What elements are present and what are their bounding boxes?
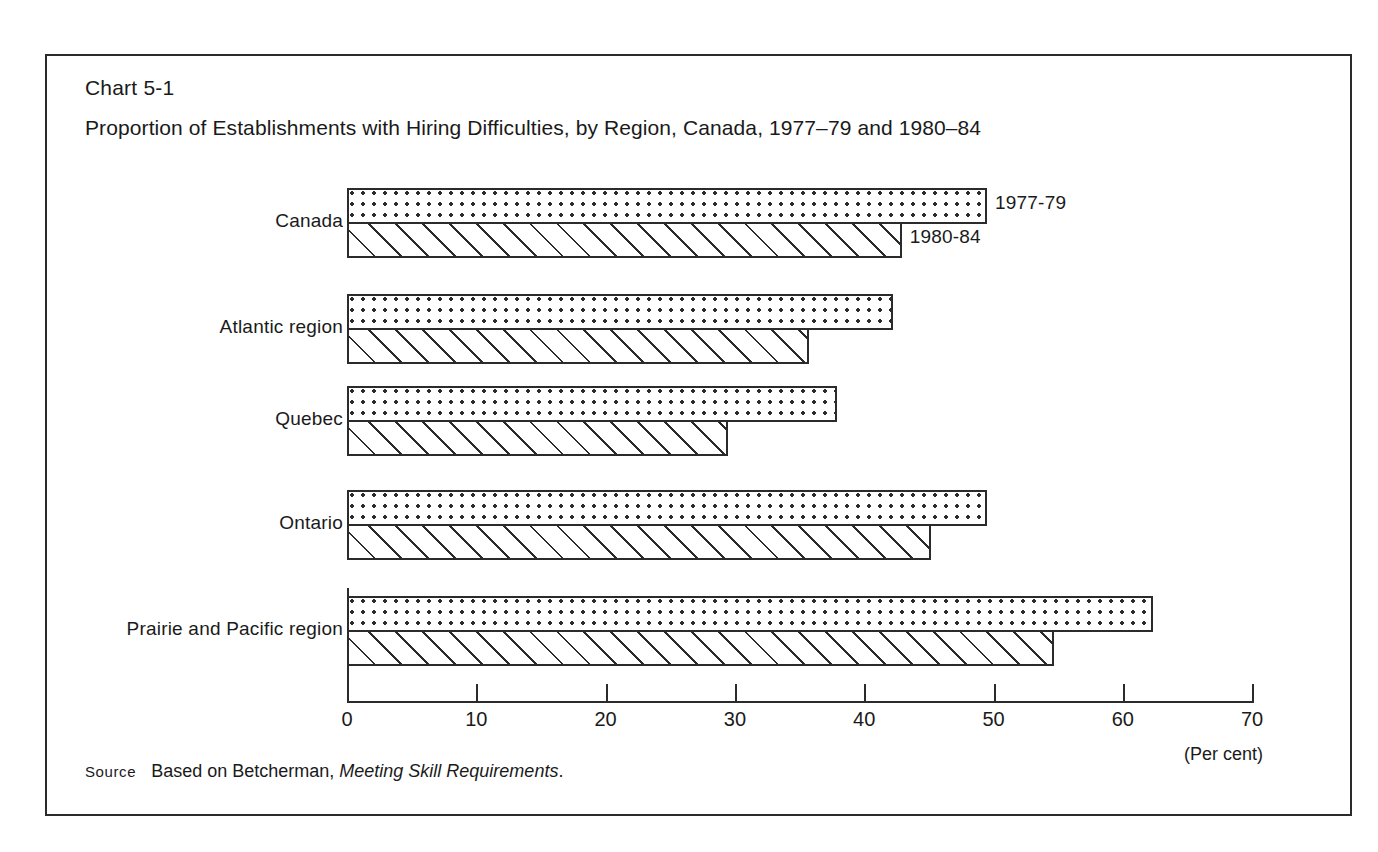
chart-figure: Chart 5-1 Proportion of Establishments w… [45,54,1352,816]
x-axis-tick-label: 40 [853,708,875,731]
source-label: Source [85,763,136,780]
source-text-before: Based on Betcherman, [151,761,334,781]
x-axis-tick-label: 20 [594,708,616,731]
bar-hatched [347,630,1054,666]
legend-label-dotted: 1977-79 [995,192,1066,214]
category-label: Canada [275,210,343,232]
x-axis-tick-label: 30 [724,708,746,731]
source-text-after: . [558,761,563,781]
x-axis-tick-label: 60 [1112,708,1134,731]
bar-hatched [347,524,931,560]
source-note: Source Based on Betcherman, Meeting Skil… [85,761,563,782]
x-axis-tick-label: 50 [982,708,1004,731]
bar-group [347,386,837,456]
y-axis-line [347,588,349,703]
bar-dotted [347,188,987,224]
bar-dotted [347,386,837,422]
bar-dotted [347,294,893,330]
bar-hatched [347,420,728,456]
bar-dotted [347,490,987,526]
x-axis-tick-label: 0 [341,708,352,731]
category-label: Prairie and Pacific region [127,618,343,640]
category-label: Ontario [279,512,343,534]
x-axis-tick-label: 10 [465,708,487,731]
bar-hatched [347,222,902,258]
bar-group [347,596,1153,666]
category-label: Quebec [275,408,343,430]
x-axis-tick-label: 70 [1241,708,1263,731]
category-label: Atlantic region [220,316,343,338]
x-axis-line [347,701,1253,703]
bar-group [347,188,987,258]
bar-group [347,490,987,560]
bar-dotted [347,596,1153,632]
source-publication-title: Meeting Skill Requirements [339,761,558,781]
bar-hatched [347,328,809,364]
bar-group [347,294,893,364]
x-axis-unit-label: (Per cent) [1184,744,1263,765]
